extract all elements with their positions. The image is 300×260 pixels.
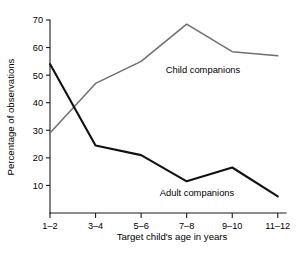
line-chart-figure: 10203040506070 1–23–45–67–89–1011–12 Chi… [0, 0, 300, 260]
x-axis-tick-label: 7–8 [179, 221, 194, 231]
adult-companions-line [50, 64, 278, 196]
y-axis-tick-label: 50 [33, 71, 43, 81]
y-axis-tick-label: 10 [33, 181, 43, 191]
child-companions-line [50, 24, 278, 133]
x-axis-tick-label: 9–10 [222, 221, 242, 231]
child-companions-annotation: Child companions [166, 64, 241, 75]
y-axis-tick-label: 20 [33, 153, 43, 163]
y-axis-tick-label: 40 [33, 98, 43, 108]
y-axis-tick-group: 10203040506070 [33, 15, 50, 190]
x-axis-tick-label: 1–2 [42, 221, 57, 231]
adult-companions-annotation: Adult companions [160, 187, 235, 198]
y-axis-tick-label: 70 [33, 15, 43, 25]
x-axis-tick-label: 11–12 [265, 221, 290, 231]
x-axis-tick-group: 1–23–45–67–89–1011–12 [42, 213, 290, 231]
y-axis-title: Percentage of observations [5, 58, 16, 175]
x-axis-title: Target child's age in years [117, 231, 228, 242]
y-axis-tick-label: 30 [33, 126, 43, 136]
chart-canvas: 10203040506070 1–23–45–67–89–1011–12 Chi… [0, 0, 300, 260]
y-axis-tick-label: 60 [33, 43, 43, 53]
x-axis-tick-label: 3–4 [88, 221, 103, 231]
x-axis-tick-label: 5–6 [133, 221, 148, 231]
